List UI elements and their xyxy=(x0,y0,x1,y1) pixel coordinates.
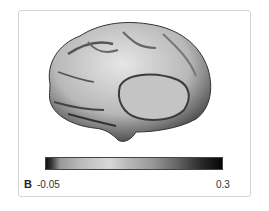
colorbar-min-label: -0.05 xyxy=(37,179,60,190)
colorbar-max-label: 0.3 xyxy=(216,179,230,190)
panel-label: B xyxy=(24,178,32,190)
brain-medial-surface-image xyxy=(28,14,228,146)
colorbar xyxy=(45,157,223,170)
